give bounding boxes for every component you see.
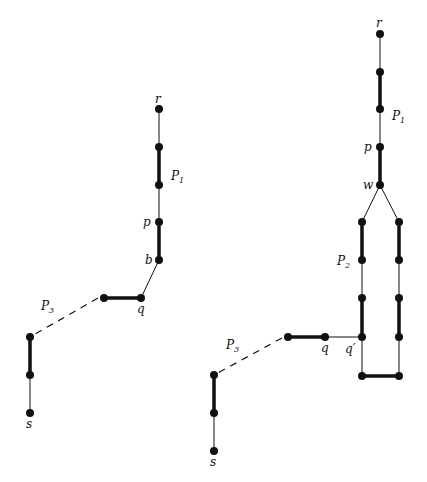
- node: [376, 68, 384, 76]
- node: [376, 105, 384, 113]
- node: [210, 371, 218, 379]
- dashed-path-p3: [214, 338, 282, 375]
- label-p2: P2: [336, 254, 350, 270]
- label-p: p: [364, 140, 372, 154]
- label-s: s: [26, 417, 32, 431]
- node: [26, 333, 34, 341]
- node: [358, 372, 366, 380]
- node: [395, 333, 403, 341]
- node: [26, 371, 34, 379]
- label-q: q: [321, 341, 329, 355]
- label-w: w: [363, 178, 374, 192]
- node: [395, 218, 403, 226]
- label-p1: P1: [391, 109, 405, 125]
- path-diagram: r P1 p b q P3 s: [0, 0, 427, 482]
- label-p3: P3: [225, 338, 239, 354]
- node: [100, 294, 108, 302]
- node: [358, 294, 366, 302]
- node: [155, 143, 163, 151]
- label-s: s: [210, 455, 216, 469]
- right-labels: r P1 p w P2 q q′ P3 s: [210, 16, 405, 469]
- node: [395, 256, 403, 264]
- node: [358, 218, 366, 226]
- node-s: [26, 409, 34, 417]
- label-q-prime: q′: [345, 342, 356, 356]
- node-q: [137, 294, 145, 302]
- right-nodes: [210, 30, 403, 455]
- node-p: [155, 218, 163, 226]
- node-p: [376, 143, 384, 151]
- node: [155, 181, 163, 189]
- label-p1: P1: [170, 169, 184, 185]
- label-b: b: [145, 253, 153, 267]
- node-r: [155, 105, 163, 113]
- label-r: r: [155, 92, 162, 106]
- edge-thin: [380, 185, 399, 222]
- node-q-prime: [358, 333, 366, 341]
- node: [395, 294, 403, 302]
- label-p3: P3: [40, 299, 54, 315]
- node: [210, 409, 218, 417]
- node-s: [210, 447, 218, 455]
- label-q: q: [137, 302, 145, 316]
- node-q: [321, 333, 329, 341]
- node: [358, 256, 366, 264]
- node-b: [155, 256, 163, 264]
- node: [395, 372, 403, 380]
- node: [284, 333, 292, 341]
- node-r: [376, 30, 384, 38]
- left-figure: [30, 109, 159, 413]
- node-w: [376, 181, 384, 189]
- left-nodes: [26, 105, 163, 417]
- right-figure: [214, 34, 399, 451]
- label-r: r: [376, 16, 383, 30]
- label-p: p: [143, 215, 151, 229]
